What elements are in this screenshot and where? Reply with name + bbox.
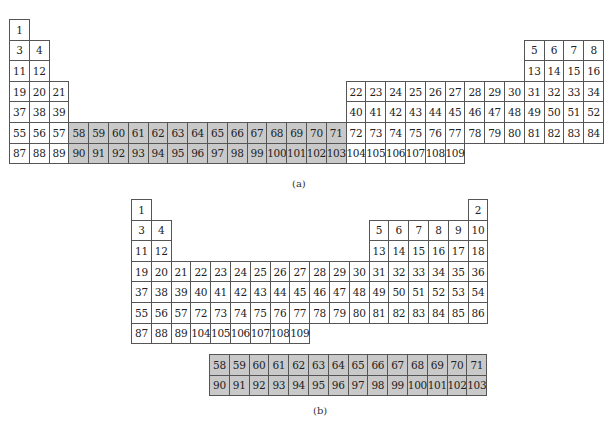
element-cell-98: 98 bbox=[227, 143, 248, 165]
element-cell-35: 35 bbox=[448, 261, 469, 283]
element-cell-41: 41 bbox=[365, 101, 386, 123]
element-cell-42: 42 bbox=[230, 281, 251, 303]
element-cell-94: 94 bbox=[288, 375, 309, 397]
element-cell-92: 92 bbox=[108, 143, 129, 165]
element-cell-105: 105 bbox=[210, 323, 231, 345]
element-cell-33: 33 bbox=[563, 81, 584, 103]
element-cell-106: 106 bbox=[385, 143, 406, 165]
element-cell-87: 87 bbox=[131, 323, 152, 345]
element-cell-65: 65 bbox=[348, 354, 369, 376]
element-cell-65: 65 bbox=[207, 122, 228, 144]
element-cell-11: 11 bbox=[9, 60, 30, 82]
element-cell-55: 55 bbox=[131, 302, 152, 324]
element-cell-20: 20 bbox=[151, 261, 172, 283]
element-cell-107: 107 bbox=[250, 323, 271, 345]
element-cell-68: 68 bbox=[407, 354, 428, 376]
element-cell-43: 43 bbox=[405, 101, 426, 123]
element-cell-25: 25 bbox=[250, 261, 271, 283]
element-cell-22: 22 bbox=[190, 261, 211, 283]
element-cell-25: 25 bbox=[405, 81, 426, 103]
element-cell-79: 79 bbox=[329, 302, 350, 324]
element-cell-83: 83 bbox=[563, 122, 584, 144]
element-cell-27: 27 bbox=[289, 261, 310, 283]
element-cell-99: 99 bbox=[387, 375, 408, 397]
element-cell-27: 27 bbox=[445, 81, 466, 103]
element-cell-6: 6 bbox=[544, 40, 565, 62]
element-cell-53: 53 bbox=[448, 281, 469, 303]
element-cell-91: 91 bbox=[229, 375, 250, 397]
element-cell-50: 50 bbox=[388, 281, 409, 303]
element-cell-4: 4 bbox=[29, 40, 50, 62]
element-cell-7: 7 bbox=[563, 40, 584, 62]
element-cell-4: 4 bbox=[151, 220, 172, 242]
element-cell-13: 13 bbox=[369, 240, 390, 262]
element-cell-43: 43 bbox=[250, 281, 271, 303]
element-cell-56: 56 bbox=[29, 122, 50, 144]
element-cell-75: 75 bbox=[405, 122, 426, 144]
element-cell-24: 24 bbox=[385, 81, 406, 103]
element-cell-37: 37 bbox=[9, 101, 30, 123]
element-cell-39: 39 bbox=[49, 101, 70, 123]
element-cell-100: 100 bbox=[407, 375, 428, 397]
element-cell-94: 94 bbox=[148, 143, 169, 165]
element-cell-34: 34 bbox=[583, 81, 604, 103]
element-cell-47: 47 bbox=[484, 101, 505, 123]
element-cell-88: 88 bbox=[151, 323, 172, 345]
element-cell-14: 14 bbox=[388, 240, 409, 262]
element-cell-68: 68 bbox=[266, 122, 287, 144]
element-cell-8: 8 bbox=[583, 40, 604, 62]
element-cell-108: 108 bbox=[425, 143, 446, 165]
element-cell-72: 72 bbox=[346, 122, 367, 144]
element-cell-97: 97 bbox=[207, 143, 228, 165]
element-cell-49: 49 bbox=[369, 281, 390, 303]
element-cell-31: 31 bbox=[524, 81, 545, 103]
element-cell-9: 9 bbox=[448, 220, 469, 242]
element-cell-90: 90 bbox=[68, 143, 89, 165]
element-cell-57: 57 bbox=[171, 302, 192, 324]
element-cell-11: 11 bbox=[131, 240, 152, 262]
element-cell-46: 46 bbox=[309, 281, 330, 303]
element-cell-61: 61 bbox=[128, 122, 149, 144]
element-cell-41: 41 bbox=[210, 281, 231, 303]
element-cell-1: 1 bbox=[131, 199, 152, 221]
element-cell-64: 64 bbox=[328, 354, 349, 376]
element-cell-80: 80 bbox=[349, 302, 370, 324]
element-cell-86: 86 bbox=[468, 302, 489, 324]
element-cell-15: 15 bbox=[563, 60, 584, 82]
element-cell-2: 2 bbox=[468, 199, 489, 221]
element-cell-77: 77 bbox=[289, 302, 310, 324]
element-cell-72: 72 bbox=[190, 302, 211, 324]
element-cell-82: 82 bbox=[388, 302, 409, 324]
element-cell-106: 106 bbox=[230, 323, 251, 345]
element-cell-82: 82 bbox=[544, 122, 565, 144]
element-cell-54: 54 bbox=[468, 281, 489, 303]
element-cell-30: 30 bbox=[504, 81, 525, 103]
element-cell-59: 59 bbox=[88, 122, 109, 144]
element-cell-67: 67 bbox=[387, 354, 408, 376]
element-cell-16: 16 bbox=[428, 240, 449, 262]
element-cell-17: 17 bbox=[448, 240, 469, 262]
element-cell-38: 38 bbox=[151, 281, 172, 303]
element-cell-89: 89 bbox=[49, 143, 70, 165]
element-cell-32: 32 bbox=[544, 81, 565, 103]
element-cell-52: 52 bbox=[583, 101, 604, 123]
element-cell-26: 26 bbox=[425, 81, 446, 103]
element-cell-78: 78 bbox=[309, 302, 330, 324]
element-cell-45: 45 bbox=[289, 281, 310, 303]
element-cell-79: 79 bbox=[484, 122, 505, 144]
element-cell-101: 101 bbox=[286, 143, 307, 165]
element-cell-12: 12 bbox=[29, 60, 50, 82]
element-cell-6: 6 bbox=[388, 220, 409, 242]
element-cell-66: 66 bbox=[367, 354, 388, 376]
element-cell-97: 97 bbox=[348, 375, 369, 397]
element-cell-33: 33 bbox=[408, 261, 429, 283]
element-cell-84: 84 bbox=[583, 122, 604, 144]
element-cell-57: 57 bbox=[49, 122, 70, 144]
element-cell-89: 89 bbox=[171, 323, 192, 345]
element-cell-107: 107 bbox=[405, 143, 426, 165]
element-cell-22: 22 bbox=[346, 81, 367, 103]
element-cell-61: 61 bbox=[268, 354, 289, 376]
element-cell-70: 70 bbox=[306, 122, 327, 144]
element-cell-60: 60 bbox=[108, 122, 129, 144]
element-cell-73: 73 bbox=[365, 122, 386, 144]
